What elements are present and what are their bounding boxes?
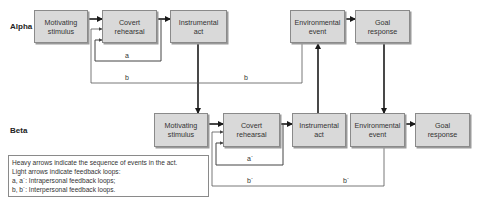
alpha-environmental-event-box: Environmental event — [290, 10, 345, 43]
legend-line-interpersonal: b, b´: Interpersonal feedback loops. — [12, 185, 205, 194]
row-label-alpha: Alpha — [10, 22, 32, 31]
alpha-instrumental-act-box: Instrumental act — [170, 10, 227, 43]
legend-line-heavy-arrows: Heavy arrows indicate the sequence of ev… — [12, 158, 205, 167]
legend-line-light-arrows: Light arrows indicate feedback loops: — [12, 167, 205, 176]
loop-label-b-right: b — [244, 74, 248, 81]
alpha-motivating-stimulus-box: Motivating stimulus — [34, 10, 88, 43]
beta-goal-response-box: Goal response — [415, 113, 470, 147]
alpha-goal-response-box: Goal response — [355, 10, 410, 43]
beta-covert-rehearsal-box: Covert rehearsal — [223, 113, 280, 147]
loop-label-b-prime-left: b´ — [247, 177, 253, 184]
loop-label-a: a — [125, 52, 129, 59]
beta-instrumental-act-box: Instrumental act — [292, 113, 346, 147]
loop-label-b-prime-right: b´ — [343, 177, 349, 184]
row-label-beta: Beta — [10, 126, 27, 135]
beta-environmental-event-box: Environmental event — [350, 113, 405, 147]
beta-motivating-stimulus-box: Motivating stimulus — [154, 113, 208, 147]
alpha-covert-rehearsal-box: Covert rehearsal — [102, 10, 157, 43]
loop-label-a-prime: a´ — [247, 155, 253, 162]
loop-label-b-left: b — [125, 74, 129, 81]
legend-box: Heavy arrows indicate the sequence of ev… — [8, 155, 209, 197]
legend-line-intrapersonal: a, a´: Intrapersonal feedback loops; — [12, 176, 205, 185]
